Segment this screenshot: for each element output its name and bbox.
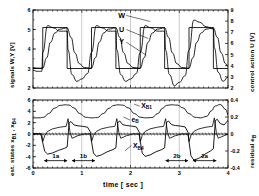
svg-text:3: 3: [178, 170, 181, 176]
svg-text:-2: -2: [26, 142, 31, 148]
svg-text:2b: 2b: [173, 152, 180, 159]
bottom-panel-plot: 6420-2-4-60.40.20-0.2-0.401234XB1eBXB41a…: [0, 0, 259, 196]
svg-text:2a: 2a: [201, 152, 208, 159]
svg-text:XB1: XB1: [141, 102, 152, 111]
figure-root: signals W,Y [V] control action U [V] 654…: [0, 0, 259, 196]
svg-text:-4: -4: [26, 154, 31, 160]
svg-text:1: 1: [80, 170, 83, 176]
svg-text:0.4: 0.4: [231, 97, 239, 103]
svg-text:0: 0: [231, 131, 234, 137]
svg-text:XB4: XB4: [133, 142, 144, 151]
svg-text:0.2: 0.2: [231, 114, 239, 120]
svg-text:6: 6: [28, 97, 31, 103]
svg-text:1a: 1a: [52, 152, 59, 159]
svg-text:-0.2: -0.2: [231, 148, 240, 154]
svg-text:0: 0: [28, 131, 31, 137]
svg-text:-6: -6: [26, 165, 31, 171]
svg-text:-0.4: -0.4: [231, 165, 240, 171]
svg-text:0: 0: [31, 170, 34, 176]
svg-text:2: 2: [28, 120, 31, 126]
svg-text:eB: eB: [131, 116, 139, 125]
svg-text:2: 2: [129, 170, 132, 176]
svg-text:1b: 1b: [80, 152, 87, 159]
svg-text:4: 4: [28, 108, 31, 114]
